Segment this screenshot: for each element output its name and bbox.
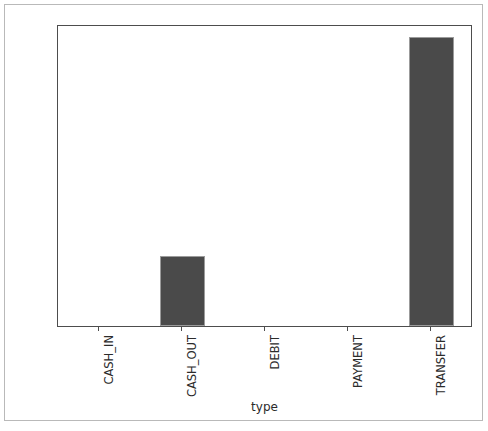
x-axis-tick-label: CASH_IN (103, 335, 115, 385)
plot-axes (57, 25, 472, 327)
figure: 0.0000.0010.0020.0030.0040.0050.0060.007… (0, 0, 488, 431)
x-axis-tick-label: DEBIT (269, 335, 281, 369)
x-axis-tick-mark (98, 327, 99, 331)
bar (160, 256, 205, 326)
x-axis-label: type (57, 400, 472, 414)
x-axis-tick-mark (181, 327, 182, 331)
x-axis-tick-mark (264, 327, 265, 331)
x-axis-tick-label: TRANSFER (435, 335, 447, 395)
bar (409, 37, 454, 326)
x-axis-tick-label: CASH_OUT (186, 335, 198, 397)
plot-area (58, 26, 471, 326)
x-axis-tick-label: PAYMENT (352, 335, 364, 388)
x-axis-tick-mark (347, 327, 348, 331)
x-axis-tick-mark (430, 327, 431, 331)
